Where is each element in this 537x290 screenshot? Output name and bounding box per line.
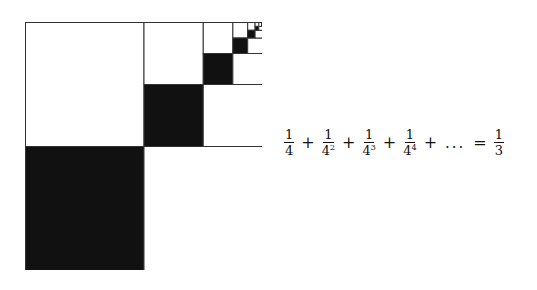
term-1: 1 4 bbox=[284, 128, 294, 157]
equals-sign: = bbox=[473, 133, 486, 152]
nested-squares-svg bbox=[25, 22, 262, 270]
plus-sign: + bbox=[383, 133, 396, 152]
result-fraction: 1 3 bbox=[494, 128, 504, 157]
geometric-series-equation: 1 4 + 1 42 + 1 43 + 1 44 + ... = 1 3 bbox=[282, 128, 506, 157]
plus-sign: + bbox=[301, 133, 314, 152]
term-3: 1 43 bbox=[362, 128, 375, 157]
nested-squares-figure bbox=[25, 22, 262, 270]
plus-sign: + bbox=[424, 133, 437, 152]
term-2: 1 42 bbox=[322, 128, 335, 157]
ellipsis: ... bbox=[445, 134, 465, 152]
term-4: 1 44 bbox=[403, 128, 416, 157]
plus-sign: + bbox=[342, 133, 355, 152]
